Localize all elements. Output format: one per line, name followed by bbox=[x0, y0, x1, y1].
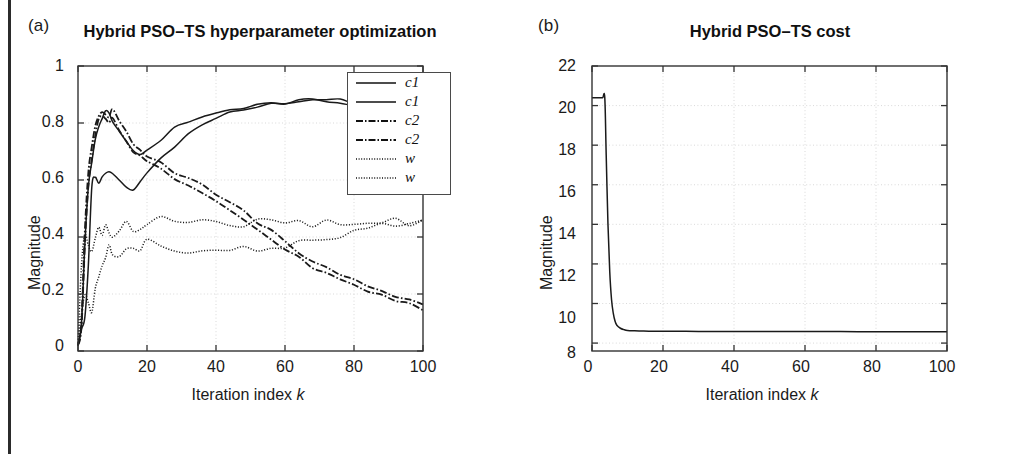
legend-line-c2-b bbox=[354, 133, 398, 147]
legend-label-1: c1 bbox=[405, 93, 419, 110]
legend-entry-4: w bbox=[348, 149, 450, 168]
panel-b-plot bbox=[510, 0, 1028, 454]
figure-root: (a) Hybrid PSO–TS hyperparameter optimiz… bbox=[0, 0, 1028, 454]
legend-line-w-a bbox=[354, 152, 398, 166]
legend-label-3: c2 bbox=[405, 131, 419, 148]
legend-entry-2: c2 bbox=[348, 111, 450, 130]
legend-label-5: w bbox=[405, 169, 415, 186]
panel-b: (b) Hybrid PSO–TS cost Magnitude 22 20 1… bbox=[510, 0, 1028, 454]
legend-line-w-b bbox=[354, 171, 398, 185]
legend-label-2: c2 bbox=[405, 112, 419, 129]
legend-entry-0: c1 bbox=[348, 73, 450, 92]
legend-label-4: w bbox=[405, 150, 415, 167]
legend-label-0: c1 bbox=[405, 74, 419, 91]
legend-entry-3: c2 bbox=[348, 130, 450, 149]
panel-a-plot bbox=[0, 0, 510, 454]
legend-entry-5: w bbox=[348, 168, 450, 187]
panel-a: (a) Hybrid PSO–TS hyperparameter optimiz… bbox=[0, 0, 510, 454]
legend-entry-1: c1 bbox=[348, 92, 450, 111]
panel-a-legend: c1 c1 c2 c2 bbox=[347, 72, 451, 195]
legend-line-c1-a bbox=[354, 76, 398, 90]
legend-line-c1-b bbox=[354, 95, 398, 109]
legend-line-c2-a bbox=[354, 114, 398, 128]
